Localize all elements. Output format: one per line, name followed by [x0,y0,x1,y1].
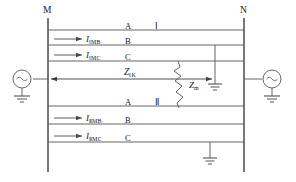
impedance-subscript-zm: m [194,85,199,91]
diagram-canvas: M N A Ⅰ B C A Ⅱ B C IⅠMB IⅠMC IⅡMB IⅡMC … [0,0,296,182]
current-label-1b: IⅠMB [86,35,101,44]
current-label-2b: IⅡMB [86,114,102,123]
phase-label-2c: C [125,134,131,143]
phase-label-2a: A [125,98,131,107]
impedance-label-zik: ZⅠK [124,68,136,78]
fault-impedance-zigzag [174,61,183,108]
current-label-1c: IⅠMC [86,51,101,60]
ac-source-m [13,70,31,102]
current-subscript-1c: ⅠMC [89,55,101,61]
ac-source-n [263,70,281,102]
phase-label-2b: B [125,116,131,125]
phase-label-1a: A [125,22,131,31]
circuit-roman-two: Ⅱ [155,98,159,107]
diagram-graphics [0,0,296,182]
impedance-label-zm: Zm [189,81,199,90]
bus-label-m: M [43,6,51,16]
current-subscript-2b: ⅡMB [89,118,102,124]
phase-label-1c: C [125,53,131,62]
phase-label-1b: B [125,37,131,46]
fault-tap-upper [208,45,222,90]
impedance-subscript-zik: ⅠK [129,72,136,78]
current-subscript-2c: ⅡMC [89,136,102,142]
current-subscript-1b: ⅠMB [89,39,101,45]
fault-tap-lower [203,142,217,164]
circuit-two-conductors [48,106,244,142]
current-label-2c: IⅡMC [86,132,102,141]
circuit-roman-one: Ⅰ [155,22,158,31]
bus-label-n: N [240,6,247,16]
